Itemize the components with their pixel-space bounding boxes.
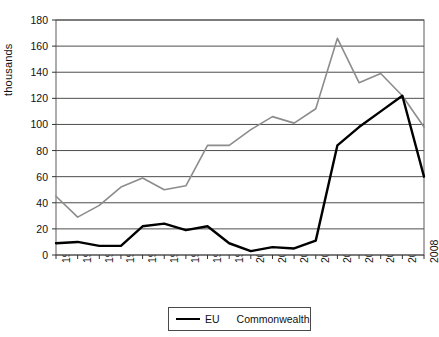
line-chart: thousands 020406080100120140160180 19911… bbox=[0, 0, 439, 337]
plot-area bbox=[0, 0, 439, 337]
legend-label-commonwealth: Commonwealth bbox=[237, 313, 310, 325]
legend-swatch-eu bbox=[176, 318, 200, 320]
legend-label-eu: EU bbox=[205, 313, 220, 325]
chart-legend: EU Commonwealth bbox=[168, 307, 311, 331]
